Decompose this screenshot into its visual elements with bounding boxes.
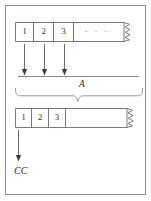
grouping-brace — [16, 89, 143, 102]
result-array-body — [16, 109, 128, 128]
source-cell-ellipsis: · · · — [85, 26, 110, 36]
result-cell-label-2: 2 — [38, 112, 42, 122]
output-arrow-label: CC — [14, 165, 28, 176]
source-cell-label-2: 2 — [41, 26, 45, 36]
figure-container: 1 2 3 · · · A — [0, 0, 151, 201]
result-array: 1 2 3 — [16, 109, 134, 128]
mapping-arrow-head-2 — [42, 69, 47, 76]
axis-A-label: A — [78, 79, 85, 89]
mapping-arrows — [22, 44, 67, 76]
mapping-arrow-head-3 — [62, 69, 67, 76]
source-array-torn-edge — [124, 23, 130, 42]
result-array-torn-edge — [127, 109, 133, 128]
grouping-brace-path — [16, 89, 143, 102]
output-arrow: CC — [14, 130, 28, 176]
output-arrow-head — [16, 155, 21, 162]
source-cell-label-1: 1 — [22, 26, 26, 36]
source-cell-label-3: 3 — [61, 26, 65, 36]
source-array: 1 2 3 · · · — [16, 23, 131, 42]
axis-A: A — [18, 77, 139, 90]
diagram-canvas: 1 2 3 · · · A — [0, 0, 151, 201]
mapping-arrow-head-1 — [22, 69, 27, 76]
result-cell-label-3: 3 — [55, 112, 59, 122]
result-cell-label-1: 1 — [21, 112, 25, 122]
